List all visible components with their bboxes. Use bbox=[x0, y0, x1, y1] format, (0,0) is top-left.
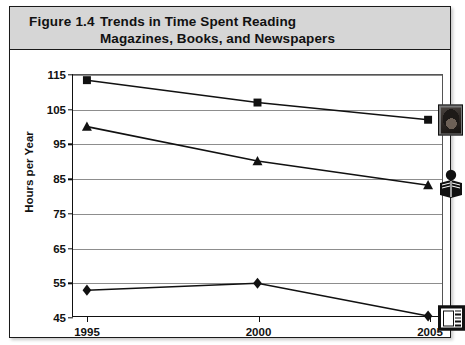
series-lines-and-markers bbox=[73, 75, 442, 316]
y-tick-mark bbox=[68, 317, 73, 318]
figure-card: Figure 1.4 Trends in Time Spent Reading … bbox=[9, 6, 451, 338]
marker-diamond bbox=[253, 278, 262, 289]
series-line-books bbox=[87, 127, 428, 186]
y-tick-label: 45 bbox=[53, 312, 66, 324]
marker-square bbox=[254, 99, 262, 107]
marker-triangle bbox=[82, 121, 92, 130]
marker-diamond bbox=[83, 285, 92, 296]
magazine-cover-icon bbox=[438, 105, 463, 136]
figure-number: Figure 1.4 bbox=[29, 14, 95, 29]
figure-title-banner: Figure 1.4 Trends in Time Spent Reading … bbox=[10, 7, 450, 50]
x-tick-mark bbox=[87, 316, 88, 322]
newspaper-icon bbox=[438, 306, 465, 331]
y-axis-label: Hours per Year bbox=[23, 117, 35, 227]
person-reading-book-icon bbox=[438, 169, 464, 203]
plot-region: 455565758595105115 199520002005 bbox=[72, 74, 443, 317]
figure-title-line-2: Magazines, Books, and Newspapers bbox=[100, 31, 440, 48]
x-tick-label: 1995 bbox=[74, 326, 100, 338]
y-tick-label: 105 bbox=[47, 104, 66, 116]
figure-title: Trends in Time Spent Reading Magazines, … bbox=[100, 14, 440, 47]
y-tick-label: 115 bbox=[47, 69, 66, 81]
chart-area: Hours per Year 455565758595105115 199520… bbox=[10, 50, 452, 337]
y-tick-label: 55 bbox=[53, 277, 66, 289]
x-tick-label: 2000 bbox=[246, 326, 272, 338]
marker-square bbox=[83, 76, 91, 84]
figure-title-line-1: Trends in Time Spent Reading bbox=[100, 14, 440, 31]
marker-square bbox=[424, 116, 432, 124]
y-tick-label: 75 bbox=[53, 208, 66, 220]
y-tick-label: 95 bbox=[53, 138, 66, 150]
x-tick-mark bbox=[259, 316, 260, 322]
y-tick-label: 65 bbox=[53, 243, 66, 255]
y-tick-label: 85 bbox=[53, 173, 66, 185]
